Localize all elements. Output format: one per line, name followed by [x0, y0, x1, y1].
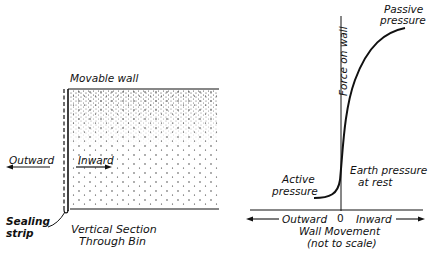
- x-inward-label: Inward: [356, 214, 392, 225]
- inward-label: Inward: [78, 155, 114, 166]
- x-outward-label: Outward: [282, 214, 327, 225]
- movable-wall-label: Movable wall: [70, 73, 138, 84]
- x-outward-arrow: [246, 217, 279, 222]
- active-label-1: Active: [282, 174, 315, 185]
- caption-line-1: Vertical Section: [71, 224, 157, 235]
- sealing-strip-label-1: Sealing: [6, 216, 50, 227]
- passive-label-2: pressure: [380, 15, 426, 26]
- x-axis-label-2: (not to scale): [307, 238, 377, 249]
- sealing-strip-label-2: strip: [6, 228, 34, 239]
- x-inward-arrow: [396, 217, 425, 222]
- caption-line-2: Through Bin: [79, 236, 146, 247]
- sealing-strip-leader: [48, 212, 65, 227]
- active-label-2: pressure: [272, 186, 318, 197]
- rest-label-1: Earth pressure: [350, 165, 427, 176]
- y-axis-label: Force on wall: [338, 16, 349, 96]
- granular-fill: [69, 90, 219, 208]
- x-axis-label-1: Wall Movement: [299, 226, 380, 237]
- x-zero-label: 0: [337, 213, 344, 224]
- outward-label: Outward: [9, 155, 54, 166]
- rest-label-2: at rest: [358, 177, 392, 188]
